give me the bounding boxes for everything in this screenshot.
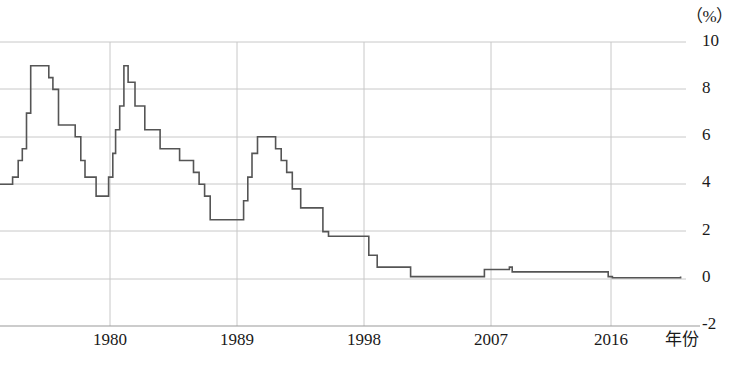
data-series-line <box>0 66 681 278</box>
chart-canvas <box>0 0 738 375</box>
gridlines <box>0 42 686 326</box>
interest-rate-chart: （%） 10 8 6 4 2 0 -2 1980 1989 1998 2007 … <box>0 0 738 375</box>
